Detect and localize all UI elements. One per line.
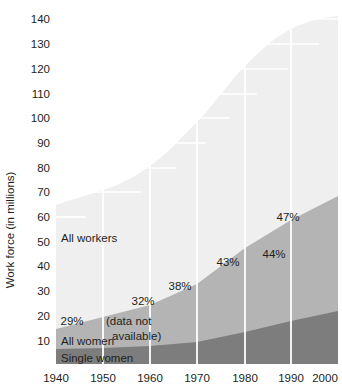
ytick-120: 120: [31, 63, 50, 75]
series-label-all-workers: All workers: [61, 232, 117, 244]
xtick-1970: 1970: [184, 372, 210, 384]
pct-label-2000: 47%: [276, 211, 299, 223]
ytick-40: 40: [37, 260, 50, 272]
ytick-100: 100: [31, 112, 50, 124]
xtick-1990: 1990: [278, 372, 304, 384]
workforce-area-chart: 140 130 120 110 100 90 80 70 60 50 40 30…: [0, 0, 342, 391]
ytick-20: 20: [37, 310, 50, 322]
data-not-available-line2: available): [112, 330, 161, 342]
ytick-50: 50: [37, 236, 50, 248]
ytick-70: 70: [37, 186, 50, 198]
xtick-1960: 1960: [137, 372, 163, 384]
ytick-140: 140: [31, 13, 50, 25]
ytick-130: 130: [31, 38, 50, 50]
pct-label-1940: 29%: [60, 315, 83, 327]
ytick-30: 30: [37, 285, 50, 297]
ytick-110: 110: [32, 88, 50, 100]
data-not-available-line1: (data not: [106, 315, 152, 327]
ytick-60: 60: [37, 211, 50, 223]
pct-label-1980: 43%: [216, 256, 239, 268]
pct-label-1970: 38%: [168, 280, 191, 292]
xtick-1940: 1940: [43, 372, 69, 384]
xtick-1950: 1950: [90, 372, 116, 384]
pct-label-1960: 32%: [131, 295, 154, 307]
xtick-1980: 1980: [232, 372, 258, 384]
ytick-90: 90: [37, 137, 50, 149]
series-label-single-women: Single women: [61, 352, 133, 364]
ytick-80: 80: [37, 162, 50, 174]
pct-label-1990: 44%: [262, 248, 285, 260]
chart-canvas: 140 130 120 110 100 90 80 70 60 50 40 30…: [0, 0, 342, 391]
y-axis-title: Work force (in millions): [4, 171, 16, 288]
xtick-2000: 2000: [312, 372, 338, 384]
ytick-10: 10: [37, 335, 50, 347]
series-label-all-women: All women: [61, 335, 114, 347]
